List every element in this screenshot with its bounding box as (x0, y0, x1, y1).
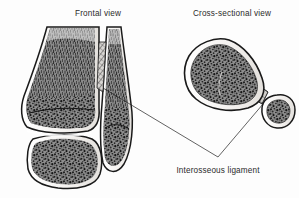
talus-trabeculae (31, 139, 98, 185)
fibula-cross-section-trabeculae (267, 100, 290, 123)
anatomy-illustration: Frontal view Cross-sectional view Intero (0, 0, 299, 198)
interosseous-ligament-label: Interosseous ligament (176, 166, 260, 175)
figure-canvas: Frontal view Cross-sectional view Intero (0, 0, 299, 198)
fibula-proximal-fade (108, 29, 121, 44)
cross-sectional-view-title: Cross-sectional view (193, 9, 271, 18)
frontal-view-title: Frontal view (75, 9, 121, 18)
